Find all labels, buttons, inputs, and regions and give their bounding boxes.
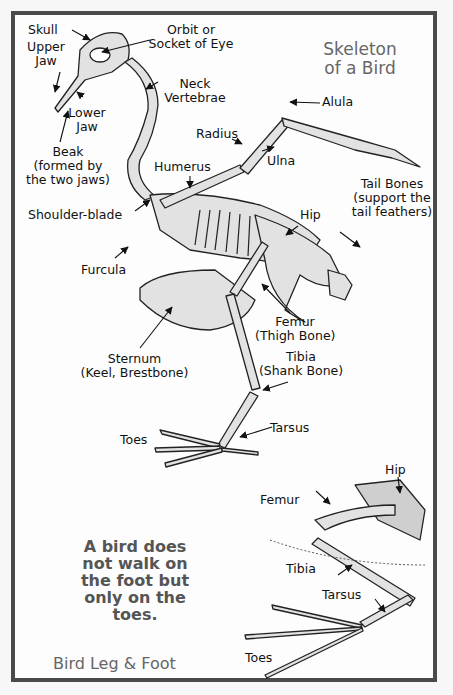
inset-label-femur: Femur	[260, 493, 299, 507]
inset-note: A bird does not walk on the foot but onl…	[60, 538, 210, 623]
inset-label-tarsus: Tarsus	[322, 588, 361, 602]
inset-label-toes: Toes	[245, 651, 272, 665]
label-lower-jaw: LowerJaw	[62, 106, 112, 134]
label-hip: Hip	[300, 208, 321, 222]
label-tarsus: Tarsus	[270, 421, 309, 435]
label-upper-jaw: UpperJaw	[24, 40, 68, 68]
label-skull: Skull	[28, 23, 58, 37]
label-alula: Alula	[322, 95, 353, 109]
inset-tarsus-shape	[360, 595, 413, 627]
diagram-title: Skeleton of a Bird	[305, 40, 415, 78]
label-shoulder-blade: Shoulder-blade	[28, 208, 122, 222]
inset-label-tibia: Tibia	[286, 562, 316, 576]
label-radius: Radius	[196, 127, 238, 141]
inset-caption: Bird Leg & Foot	[53, 654, 176, 673]
label-orbit: Orbit orSocket of Eye	[146, 23, 236, 51]
label-tail-bones: Tail Bones(support thetail feathers)	[344, 177, 440, 219]
label-sternum: Sternum(Keel, Brestbone)	[72, 352, 197, 380]
label-femur: Femur(Thigh Bone)	[255, 315, 335, 343]
label-ulna: Ulna	[267, 154, 295, 168]
neck-vertebrae-shape	[125, 58, 158, 200]
label-neck-vertebrae: NeckVertebrae	[155, 77, 235, 105]
label-tibia: Tibia(Shank Bone)	[255, 350, 347, 378]
inset-label-hip: Hip	[385, 463, 406, 477]
tail-bones-shape	[328, 270, 352, 300]
label-humerus: Humerus	[154, 160, 211, 174]
label-beak: Beak(formed bythe two jaws)	[18, 145, 118, 187]
title-line-1: Skeleton	[305, 40, 415, 59]
title-line-2: of a Bird	[305, 59, 415, 78]
label-furcula: Furcula	[81, 263, 126, 277]
label-toes: Toes	[120, 433, 147, 447]
